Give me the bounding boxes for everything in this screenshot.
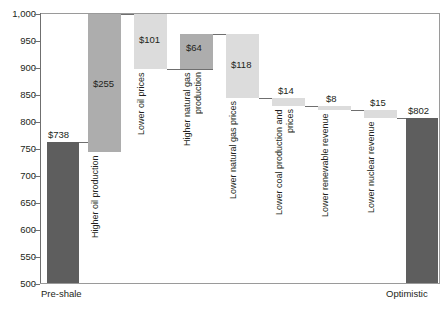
x-axis-line (40, 283, 440, 284)
bar-pre-shale[interactable] (47, 142, 79, 283)
y-axis-tick-label: 800 (0, 117, 36, 127)
bar-category-label: Lower coal production and prices (274, 109, 295, 229)
y-axis-tick-label: 700 (0, 171, 36, 181)
bar-value-label: $802 (408, 105, 429, 116)
bar-value-label: $15 (370, 97, 386, 108)
x-axis-label: Pre-shale (41, 288, 82, 299)
bar-category-label: Higher natural gas production (182, 72, 203, 182)
y-axis-tick-label: 650 (0, 198, 36, 208)
waterfall-chart: 1,000950900850800750700650600550500 $738… (0, 0, 444, 316)
bar-category-label: Lower nuclear revenue (366, 121, 377, 226)
bar-lower-renewable-revenue[interactable] (318, 106, 351, 110)
bar-value-label: $64 (186, 42, 202, 53)
bar-category-label: Lower natural gas prices (228, 101, 239, 211)
y-axis-tick-label: 750 (0, 144, 36, 154)
y-axis-tick-label: 500 (0, 279, 36, 289)
bar-value-label: $8 (326, 93, 337, 104)
x-axis-label: Optimistic (386, 288, 428, 299)
bar-value-label: $738 (48, 129, 69, 140)
bar-value-label: $255 (93, 78, 114, 89)
bar-value-label: $118 (231, 59, 251, 70)
bar-lower-coal-production-and-prices[interactable] (272, 98, 305, 106)
y-axis-line (40, 13, 41, 284)
bar-category-label: Lower oil prices (136, 72, 147, 162)
y-axis-tick-label: 850 (0, 90, 36, 100)
bar-category-label: Higher oil production (90, 155, 101, 255)
y-axis-tick-label: 900 (0, 63, 36, 73)
bar-optimistic[interactable] (406, 118, 438, 283)
y-axis-tick-label: 550 (0, 252, 36, 262)
y-axis-tick-mark (34, 284, 40, 285)
y-axis-tick-label: 1,000 (0, 9, 36, 19)
bar-category-label: Lower renewable revenue (320, 113, 331, 223)
y-axis-tick-label: 950 (0, 36, 36, 46)
bar-lower-nuclear-revenue[interactable] (364, 110, 397, 118)
bar-value-label: $14 (278, 85, 294, 96)
step-connector-line (167, 69, 213, 70)
bar-value-label: $101 (139, 34, 160, 45)
y-axis-tick-label: 600 (0, 225, 36, 235)
